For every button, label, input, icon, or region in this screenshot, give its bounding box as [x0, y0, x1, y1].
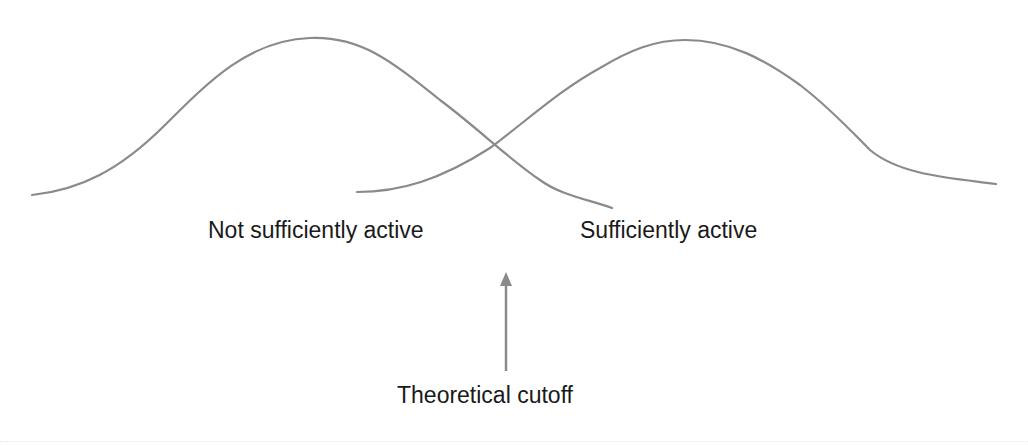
bottom-border	[0, 441, 1028, 442]
sufficiently-active-curve	[357, 40, 996, 192]
label-not-sufficiently-active: Not sufficiently active	[208, 219, 424, 242]
arrow-up-icon	[500, 272, 512, 286]
cutoff-arrow	[500, 272, 512, 371]
distribution-diagram	[0, 0, 1028, 445]
not-sufficiently-active-curve	[32, 38, 612, 208]
label-theoretical-cutoff: Theoretical cutoff	[397, 384, 573, 407]
label-sufficiently-active: Sufficiently active	[580, 219, 757, 242]
